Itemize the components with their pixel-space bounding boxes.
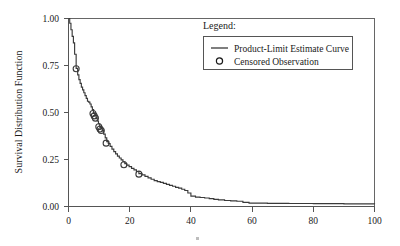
- legend-title: Legend:: [203, 20, 236, 31]
- survival-chart: 0.00 0.25 0.50 0.75 1.00 0 20 40 60 80 1…: [0, 0, 400, 246]
- censored-observation-marker: [121, 162, 127, 168]
- x-tick-label-3: 60: [247, 216, 257, 226]
- y-tick-label-1: 0.25: [42, 155, 59, 165]
- y-tick-label-0: 0.00: [42, 202, 59, 212]
- x-tick-label-1: 20: [125, 216, 135, 226]
- x-tick-label-2: 40: [186, 216, 196, 226]
- y-tick-label-2: 0.50: [42, 108, 59, 118]
- y-axis-tick-labels: 0.00 0.25 0.50 0.75 1.00: [42, 14, 59, 212]
- y-axis-title: Survival Distribution Function: [13, 51, 24, 174]
- chart-canvas: 0.00 0.25 0.50 0.75 1.00 0 20 40 60 80 1…: [0, 0, 400, 246]
- legend: Legend: Product-Limit Estimate Curve Cen…: [203, 20, 353, 70]
- x-axis-ticks: [69, 207, 375, 212]
- legend-label-curve: Product-Limit Estimate Curve: [234, 44, 349, 54]
- censored-observations: [73, 66, 142, 177]
- legend-label-censored: Censored Observation: [234, 57, 319, 67]
- scan-artifact: [196, 237, 199, 240]
- x-axis-tick-labels: 0 20 40 60 80 100: [66, 216, 382, 226]
- y-tick-label-3: 0.75: [42, 61, 59, 71]
- x-tick-label-5: 100: [367, 216, 382, 226]
- x-tick-label-4: 80: [309, 216, 319, 226]
- y-tick-label-4: 1.00: [42, 14, 59, 24]
- y-axis-ticks: [64, 19, 69, 207]
- x-tick-label-0: 0: [66, 216, 71, 226]
